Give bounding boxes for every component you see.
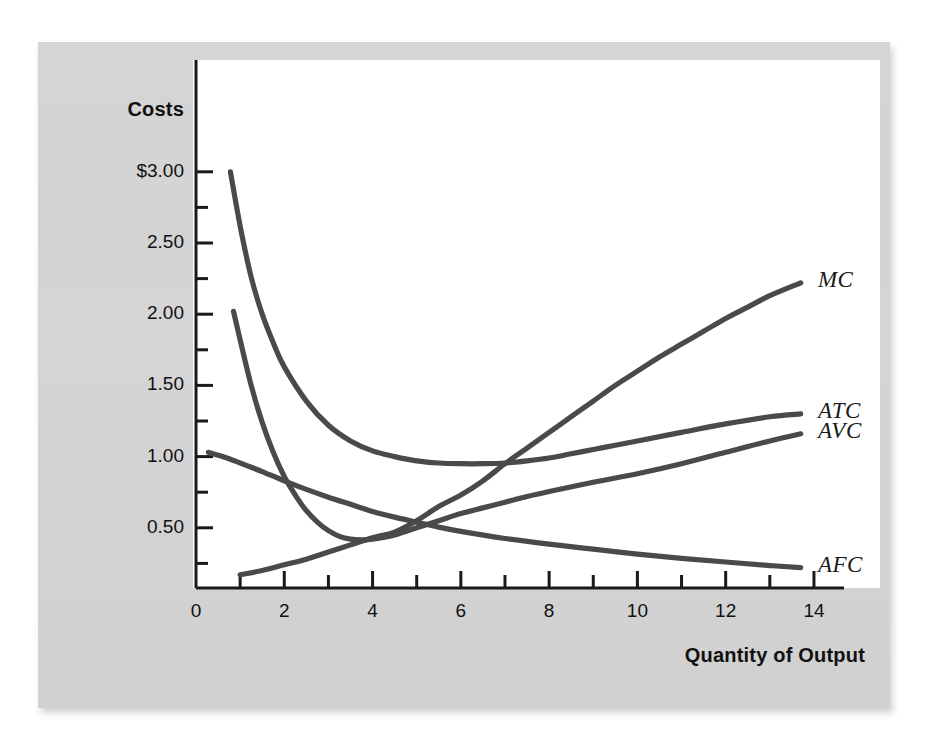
x-tick-label: 14	[784, 600, 844, 622]
x-tick-label: 2	[254, 600, 314, 622]
y-tick-label: 1.50	[48, 373, 184, 395]
x-tick-label: 4	[343, 600, 403, 622]
axes-group	[196, 60, 844, 588]
figure-root: Costs Quantity of Output $3.002.502.001.…	[0, 0, 928, 738]
x-tick-label: 12	[696, 600, 756, 622]
chart-svg	[0, 0, 928, 738]
x-tick-label: 6	[431, 600, 491, 622]
curve-label-afc: AFC	[818, 552, 863, 578]
y-tick-label: 2.00	[48, 302, 184, 324]
x-tick-label: 8	[519, 600, 579, 622]
curve-label-mc: MC	[818, 267, 854, 293]
y-tick-label: $3.00	[48, 160, 184, 182]
y-tick-label: 2.50	[48, 231, 184, 253]
y-tick-label: 1.00	[48, 445, 184, 467]
curve-atc	[230, 172, 800, 464]
curve-afc	[208, 452, 800, 567]
curve-label-avc: AVC	[818, 418, 862, 444]
x-tick-label: 10	[607, 600, 667, 622]
curve-mc	[240, 283, 801, 575]
y-tick-label: 0.50	[48, 516, 184, 538]
x-tick-label: 0	[166, 600, 226, 622]
curves-group	[208, 172, 800, 575]
